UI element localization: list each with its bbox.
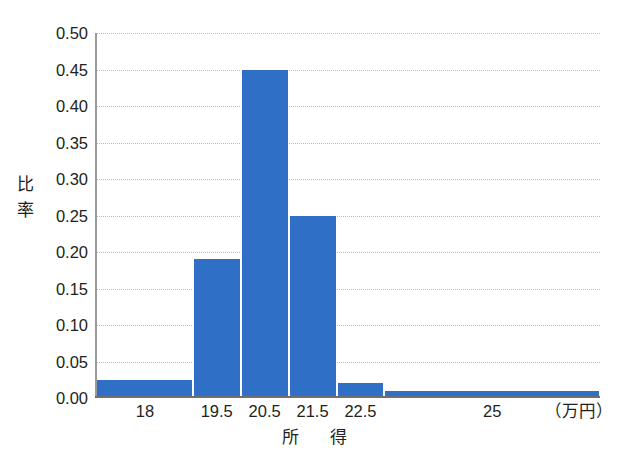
y-axis-tick-label: 0.05: [42, 353, 88, 370]
bar: [241, 70, 289, 399]
plot-area: [95, 33, 600, 398]
x-axis-tick-label: 22.5: [344, 402, 376, 420]
x-axis-title-text: 所 得: [275, 428, 354, 447]
y-axis-title-char-2: 率: [14, 198, 36, 224]
x-axis-tick-label: 18: [136, 402, 154, 420]
x-axis-unit-label: （万円）: [545, 402, 613, 420]
y-axis-tick-labels: 0.000.050.100.150.200.250.300.350.400.45…: [42, 33, 88, 398]
y-axis-tick-label: 0.35: [42, 134, 88, 151]
bar: [289, 216, 337, 399]
y-axis-tick-label: 0.10: [42, 317, 88, 334]
y-axis-tick-label: 0.40: [42, 98, 88, 115]
y-axis-tick-label: 0.20: [42, 244, 88, 261]
x-axis-line: [95, 396, 600, 398]
y-axis-tick-label: 0.45: [42, 61, 88, 78]
x-axis-tick-label: 19.5: [201, 402, 233, 420]
x-axis-title: 所 得: [0, 428, 628, 448]
y-axis-tick-label: 0.00: [42, 390, 88, 407]
y-axis-title: 比 率: [14, 172, 36, 224]
x-axis-tick-label: 21.5: [297, 402, 329, 420]
y-axis-tick-label: 0.15: [42, 280, 88, 297]
y-axis-tick-label: 0.25: [42, 207, 88, 224]
x-axis-tick-label: 20.5: [249, 402, 281, 420]
y-axis-tick-label: 0.50: [42, 25, 88, 42]
y-axis-tick-label: 0.30: [42, 171, 88, 188]
bar-series: [97, 33, 600, 398]
x-axis-tick-labels: 1819.520.521.522.525: [95, 402, 600, 424]
bar: [193, 259, 241, 398]
x-axis-tick-label: 25: [483, 402, 501, 420]
histogram-chart: 比 率 0.000.050.100.150.200.250.300.350.40…: [0, 0, 628, 467]
y-axis-title-char-1: 比: [14, 172, 36, 198]
